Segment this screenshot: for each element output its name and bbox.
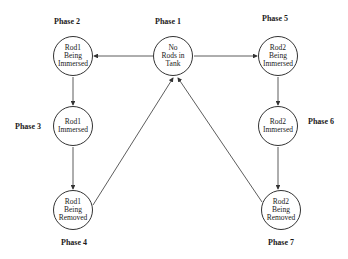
node-rod1-immersed: Rod1 Immersed	[53, 106, 93, 146]
node-text: Tank	[166, 60, 181, 68]
node-text: Immersed	[263, 126, 293, 134]
edge-n4-n1	[93, 78, 173, 205]
node-rod2-being-immersed: Rod2 Being Immersed	[258, 36, 298, 76]
edge-n7-n1	[178, 78, 262, 202]
node-text: Removed	[59, 214, 88, 222]
node-no-rods-in-tank: No Rods in Tank	[153, 36, 193, 76]
node-rod1-being-removed: Rod1 Being Removed	[53, 190, 93, 230]
phase-1-label: Phase 1	[155, 17, 181, 26]
node-rod2-immersed: Rod2 Immersed	[258, 106, 298, 146]
phase-7-label: Phase 7	[268, 238, 294, 247]
node-text: Removed	[267, 214, 296, 222]
phase-2-label: Phase 2	[54, 17, 80, 26]
node-text: Immersed	[263, 60, 293, 68]
node-text: Immersed	[58, 60, 88, 68]
phase-3-label: Phase 3	[15, 122, 41, 131]
phase-5-label: Phase 5	[262, 14, 288, 23]
node-rod2-being-removed: Rod2 Being Removed	[261, 190, 301, 230]
node-rod1-being-immersed: Rod1 Being Immersed	[53, 36, 93, 76]
phase-4-label: Phase 4	[61, 238, 87, 247]
phase-6-label: Phase 6	[308, 117, 334, 126]
node-text: Immersed	[58, 126, 88, 134]
